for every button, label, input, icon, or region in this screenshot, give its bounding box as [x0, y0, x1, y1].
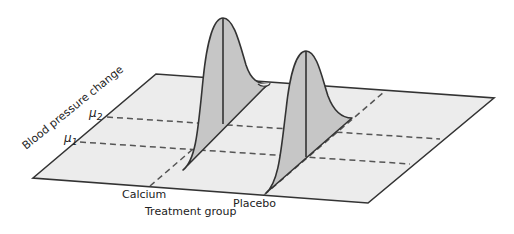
- mu1-label: μ1: [63, 131, 77, 147]
- diagram-canvas: Blood pressure change μ2 μ1 Calcium Plac…: [0, 0, 514, 234]
- treatment-plane: [33, 74, 494, 203]
- placebo-label: Placebo: [233, 197, 276, 210]
- x-axis-label: Treatment group: [144, 205, 236, 218]
- mu2-label: μ2: [88, 106, 103, 122]
- calcium-label: Calcium: [122, 188, 166, 201]
